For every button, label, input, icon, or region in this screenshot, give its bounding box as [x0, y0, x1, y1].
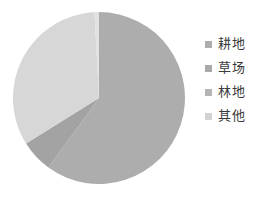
legend-item-lindi[interactable]: 林地: [205, 80, 259, 104]
square-marker-icon: [205, 65, 212, 72]
pie-plot-area: [0, 0, 200, 197]
legend-item-label: 耕地: [218, 32, 245, 56]
square-marker-icon: [205, 89, 212, 96]
chart-legend: 耕地 草场 林地 其他: [205, 32, 259, 128]
legend-item-label: 林地: [218, 80, 245, 104]
pie-chart-figure: 耕地 草场 林地 其他: [0, 0, 259, 197]
pie-chart-svg: [0, 0, 200, 197]
legend-item-qita[interactable]: 其他: [205, 104, 259, 128]
legend-item-label: 草场: [218, 56, 245, 80]
legend-item-caochang[interactable]: 草场: [205, 56, 259, 80]
pie-slice-group: [13, 12, 185, 184]
legend-item-gengdi[interactable]: 耕地: [205, 32, 259, 56]
square-marker-icon: [205, 113, 212, 120]
legend-item-label: 其他: [218, 104, 245, 128]
square-marker-icon: [205, 41, 212, 48]
